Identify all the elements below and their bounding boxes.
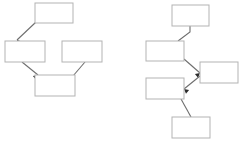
left-edge-bottom-to-middle-right [73,62,85,76]
right-edge-side-to-fourth [184,76,200,89]
right-edge-fourth-to-bottom [181,99,191,117]
right-edge-second-to-side [184,59,200,73]
right-node-bottom[interactable] [172,117,210,138]
right-node-second[interactable] [146,41,184,61]
right-node-fourth[interactable] [146,78,184,99]
edges-layer [15,22,201,122]
right-flowchart-edges [177,26,202,122]
right-edge-top-to-second [178,26,190,41]
left-node-middle-left[interactable] [5,41,45,62]
left-node-middle-right[interactable] [62,41,102,62]
right-node-side[interactable] [200,62,238,83]
nodes-layer [5,3,238,138]
left-flowchart-nodes [5,3,102,96]
flowchart-diagram-canvas [0,0,242,142]
left-edge-top-to-middle-left [17,22,36,40]
left-edge-middle-left-to-bottom [22,62,38,75]
left-node-top[interactable] [35,3,73,23]
right-flowchart-nodes [146,5,238,138]
diagram-canvas-wrapper [0,0,242,142]
left-node-bottom[interactable] [35,75,75,96]
right-node-top[interactable] [172,5,209,26]
